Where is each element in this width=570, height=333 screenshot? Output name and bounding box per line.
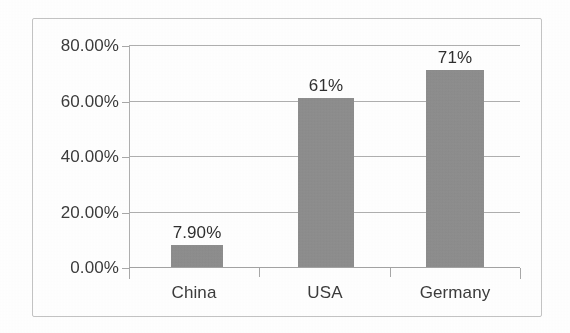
y-tick-0 <box>122 268 129 269</box>
x-tick-china-usa <box>259 268 260 277</box>
y-tick-label-40: 40.00% <box>61 147 119 167</box>
x-tick-usa-germany <box>390 268 391 277</box>
x-tick-left-edge <box>129 268 130 279</box>
plot-area: 80.00% 60.00% 40.00% 20.00% 0.00% 7.90% <box>129 45 520 267</box>
y-tick-40 <box>122 157 129 158</box>
bar-value-label-china: 7.90% <box>173 223 222 243</box>
bar-usa <box>298 98 354 267</box>
y-tick-80 <box>122 46 129 47</box>
y-tick-label-80: 80.00% <box>61 36 119 56</box>
x-tick-right-edge <box>520 268 521 279</box>
y-tick-20 <box>122 213 129 214</box>
y-tick-label-0: 0.00% <box>70 258 119 278</box>
gridline-80: 80.00% <box>129 45 520 46</box>
y-tick-label-60: 60.00% <box>61 92 119 112</box>
bar-value-label-usa: 61% <box>309 76 343 96</box>
bar-germany <box>426 70 484 267</box>
y-tick-60 <box>122 102 129 103</box>
x-category-label-china: China <box>172 283 217 303</box>
x-category-label-germany: Germany <box>420 283 491 303</box>
x-category-label-usa: USA <box>307 283 342 303</box>
bar-value-label-germany: 71% <box>438 48 472 68</box>
bar-china <box>171 245 223 267</box>
gridline-0-baseline: 0.00% <box>129 267 520 268</box>
chart-frame: 80.00% 60.00% 40.00% 20.00% 0.00% 7.90% <box>32 18 542 317</box>
y-tick-label-20: 20.00% <box>61 203 119 223</box>
